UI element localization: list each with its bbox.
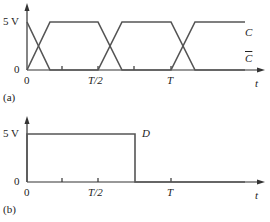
timing-diagram — [0, 0, 270, 222]
x-label-0-a: 0 — [24, 75, 30, 86]
x-axis-label-t-b: t — [255, 190, 258, 201]
series-label-d: D — [142, 128, 150, 139]
x-axis-label-t-a: t — [255, 78, 258, 89]
trace-d — [27, 134, 245, 182]
x-label-full-b: T — [167, 187, 173, 198]
y-axis-arrow-a — [25, 3, 30, 11]
x-label-0-b: 0 — [24, 187, 30, 198]
x-label-half-a: T/2 — [88, 75, 103, 86]
x-axis-arrow-a — [257, 68, 265, 73]
y-label-0-a: 0 — [14, 64, 20, 75]
trace-c-bar — [27, 22, 245, 70]
caption-b: (b) — [3, 204, 16, 215]
y-label-5v-a: 5 V — [3, 16, 19, 27]
series-label-c: C — [245, 27, 252, 38]
y-label-5v-b: 5 V — [3, 128, 19, 139]
x-label-full-a: T — [167, 75, 173, 86]
y-label-0-b: 0 — [14, 176, 20, 187]
trace-c — [27, 22, 245, 70]
series-label-c-bar: C — [245, 53, 252, 64]
panel-a-axes — [27, 8, 258, 70]
caption-a: (a) — [3, 92, 15, 103]
x-axis-arrow-b — [257, 180, 265, 185]
x-label-half-b: T/2 — [88, 187, 103, 198]
y-axis-arrow-b — [25, 116, 30, 124]
